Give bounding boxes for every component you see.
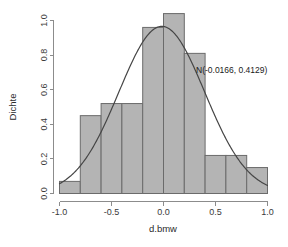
y-tick-label: 0.0 (39, 187, 49, 200)
histogram-bar (60, 181, 81, 193)
histogram-bar (122, 104, 143, 194)
y-tick-label: 0.8 (39, 49, 49, 62)
histogram-chart: 0.00.20.40.60.81.0 -1.0-0.50.00.51.0 d.b… (0, 0, 288, 247)
y-tick-label: 0.2 (39, 153, 49, 166)
x-tick-label: 0.0 (157, 207, 170, 217)
y-tick-label: 0.6 (39, 83, 49, 96)
histogram-bar (80, 116, 101, 194)
x-tick-label: 0.5 (209, 207, 222, 217)
x-tick-label: 1.0 (261, 207, 274, 217)
x-tick-label: -0.5 (104, 207, 120, 217)
histogram-bar (226, 155, 247, 193)
histogram-bar (143, 27, 164, 193)
x-tick-label: -1.0 (52, 207, 68, 217)
histogram-bar (247, 168, 268, 194)
density-annotation-label: N(-0.0166, 0.4129) (196, 65, 268, 75)
histogram-bar (205, 155, 226, 193)
histogram-bar (101, 104, 122, 194)
y-axis-title: Dichte (7, 94, 18, 121)
y-tick-label: 0.4 (39, 118, 49, 131)
y-tick-label: 1.0 (39, 14, 49, 27)
x-axis-title: d.bmw (149, 223, 177, 234)
histogram-plot-panel: 0.00.20.40.60.81.0 -1.0-0.50.00.51.0 d.b… (0, 0, 288, 247)
histogram-bar (164, 14, 185, 194)
